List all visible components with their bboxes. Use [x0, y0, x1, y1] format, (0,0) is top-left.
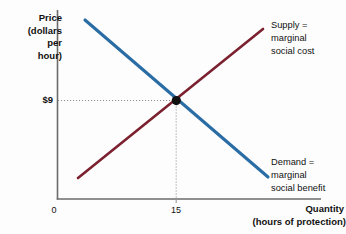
y-axis-title: Price (dollars per hour) — [0, 12, 62, 62]
demand-curve-label: Demand = marginal social benefit — [271, 156, 325, 194]
x-axis-tick-label-15: 15 — [166, 205, 186, 216]
supply-curve-label: Supply = marginal social cost — [271, 19, 314, 57]
x-axis-subtitle: (hours of protection) — [232, 216, 346, 227]
x-axis-title: Quantity — [232, 203, 344, 216]
x-axis-tick-label-0: 0 — [47, 205, 61, 216]
supply-demand-chart: Price (dollars per hour) $9 0 15 Quantit… — [0, 0, 346, 234]
equilibrium-point-marker — [172, 96, 181, 105]
y-axis-tick-label-9: $9 — [33, 94, 53, 105]
supply-curve — [78, 29, 263, 178]
